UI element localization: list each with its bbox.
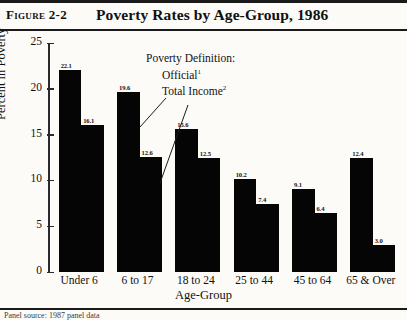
y-axis-tick-label: 15: [18, 127, 42, 139]
legend-item-official-footnote-marker: 1: [198, 68, 202, 76]
y-axis-tick-label: 25: [18, 35, 42, 47]
y-axis-tick-label: 20: [18, 81, 42, 93]
footnote-text: Panel source: 1987 panel data: [4, 311, 100, 320]
legend-heading: Poverty Definition:: [146, 52, 235, 64]
y-axis-tick-label: 5: [18, 218, 42, 230]
footer-rule: [0, 308, 407, 310]
y-axis-tick-label: 0: [18, 264, 42, 276]
figure-header: Figure 2-2 Poverty Rates by Age-Group, 1…: [0, 3, 407, 28]
legend-item-official-label: Official: [162, 69, 198, 81]
figure-container: Figure 2-2 Poverty Rates by Age-Group, 1…: [0, 0, 407, 320]
y-axis-title: Percent in Poverty: [0, 28, 9, 120]
legend-item-total-income-footnote-marker: 2: [223, 84, 227, 92]
x-axis-category-label: 65 & Over: [334, 274, 407, 286]
legend-item-total-income: Total Income2: [162, 84, 226, 97]
leader-lines: [48, 43, 400, 272]
plot-area: 0510152025 22.116.119.612.615.612.510.27…: [48, 43, 400, 272]
legend-item-official: Official1: [162, 68, 201, 81]
y-axis-tick-label: 10: [18, 172, 42, 184]
header-rule-bottom: [0, 29, 407, 31]
legend-item-total-income-label: Total Income: [162, 85, 223, 97]
figure-number: Figure 2-2: [6, 7, 67, 23]
x-axis-title: Age-Group: [0, 288, 407, 303]
leader-line-total-income: [160, 105, 188, 183]
figure-title: Poverty Rates by Age-Group, 1986: [96, 6, 328, 24]
leader-line-official: [140, 98, 166, 127]
